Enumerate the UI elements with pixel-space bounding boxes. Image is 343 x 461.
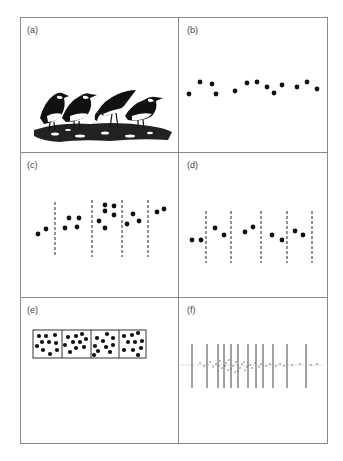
- panel-f-vertical-lines: [192, 344, 306, 388]
- panel-label-a: (a): [27, 25, 38, 35]
- panel-f-speckle-band: [178, 359, 322, 372]
- panel-label-b: (b): [187, 25, 198, 35]
- panel-c-dividers: [55, 200, 148, 257]
- panel-grid: [20, 17, 328, 444]
- panel-label-e: (e): [27, 305, 38, 315]
- figure-canvas: (a) (b) (c) (d) (e) (f): [0, 0, 343, 461]
- panel-label-f: (f): [187, 305, 196, 315]
- panel-b-dots: [187, 80, 320, 97]
- birds-illustration: [34, 90, 172, 142]
- panel-e-dots: [35, 331, 144, 357]
- panel-label-d: (d): [187, 160, 198, 170]
- panel-label-c: (c): [27, 160, 38, 170]
- panel-d-dots: [190, 225, 306, 243]
- panel-d-dividers: [206, 211, 312, 263]
